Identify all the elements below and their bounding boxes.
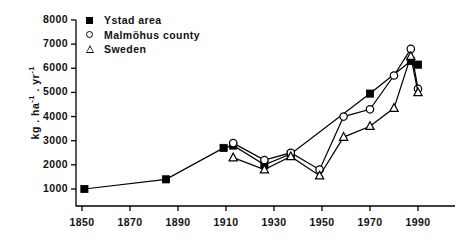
y-axis-tick-label: 3000 — [8, 134, 68, 146]
data-point-open-circle — [340, 113, 347, 120]
data-point-open-triangle — [366, 122, 374, 130]
y-axis-tick-label: 4000 — [8, 110, 68, 122]
data-point-open-triangle — [229, 153, 237, 161]
data-point-filled-square — [366, 90, 373, 97]
data-series — [229, 52, 422, 179]
y-axis-tick-label: 6000 — [8, 61, 68, 73]
x-axis-tick-label: 1990 — [388, 216, 448, 228]
plot-area — [0, 0, 463, 246]
data-point-open-circle — [230, 139, 237, 146]
data-point-filled-square — [220, 144, 227, 151]
data-point-open-circle — [261, 156, 268, 163]
data-point-open-circle — [390, 72, 397, 79]
data-point-open-circle — [366, 106, 373, 113]
data-point-filled-square — [81, 185, 88, 192]
chart-container: kg . ha-1 . yr-1 Ystad area Malmöhus cou… — [0, 0, 463, 246]
data-point-open-triangle — [390, 104, 398, 112]
y-axis-tick-label: 7000 — [8, 37, 68, 49]
data-point-filled-square — [162, 176, 169, 183]
y-axis-tick-label: 8000 — [8, 13, 68, 25]
y-axis-tick-label: 2000 — [8, 158, 68, 170]
y-axis-tick-label: 1000 — [8, 182, 68, 194]
y-axis-tick-label: 5000 — [8, 85, 68, 97]
data-point-filled-square — [414, 61, 421, 68]
